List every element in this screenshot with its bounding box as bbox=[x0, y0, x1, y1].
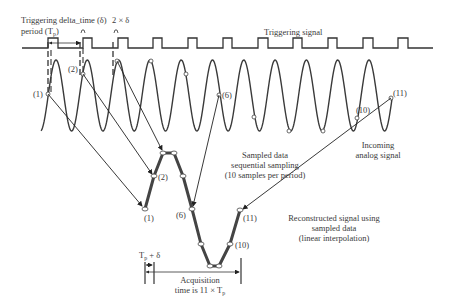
two-delta-label: 2 × δ bbox=[112, 15, 129, 25]
incoming-analog-line2: analog signal bbox=[348, 150, 408, 160]
sine-sample-label-2: (2) bbox=[68, 64, 78, 74]
triggering-signal-label: Triggering signal bbox=[264, 27, 322, 37]
recon-sample-label-2: (2) bbox=[158, 172, 168, 182]
two-delta-marker-icon bbox=[114, 30, 118, 33]
reconstructed-signal-label: Reconstructed signal using sampled data … bbox=[279, 213, 389, 243]
delta-time-label: delta_time (δ) bbox=[59, 15, 107, 25]
incoming-analog-signal-waveform bbox=[41, 60, 392, 131]
map-arrow-2 bbox=[83, 74, 152, 174]
triggering-period-label-line2: period (Tp) bbox=[21, 26, 59, 39]
recon-sample-label-1: (1) bbox=[144, 213, 154, 223]
reconstructed-line3: (linear interpolation) bbox=[279, 233, 389, 243]
sine-sample-label-11: (11) bbox=[393, 88, 407, 98]
recon-sample-label-6: (6) bbox=[176, 210, 186, 220]
sine-sample-label-10: (10) bbox=[356, 105, 370, 115]
triggering-period-text: period (T bbox=[21, 26, 53, 36]
acquisition-time-label: Acquisition time is 11 × Tp bbox=[160, 275, 240, 298]
sine-sample-label-1: (1) bbox=[33, 89, 43, 99]
triggering-period-close: ) bbox=[56, 26, 59, 36]
recon-sample-label-10: (10) bbox=[235, 240, 249, 250]
sampled-data-line2: sequential sampling bbox=[210, 160, 320, 170]
triggering-signal-waveform bbox=[22, 38, 433, 48]
sequential-sampling-diagram: Triggering period (Tp) delta_time (δ) 2 … bbox=[0, 0, 454, 307]
acquisition-subscript: p bbox=[222, 290, 225, 296]
incoming-analog-label: Incoming analog signal bbox=[348, 140, 408, 160]
tp-delta-rest: + δ bbox=[147, 250, 160, 260]
triggering-period-label-line1: Triggering bbox=[21, 15, 57, 25]
sampled-data-line1: Sampled data bbox=[210, 150, 320, 160]
reconstructed-line2: sampled data bbox=[279, 223, 389, 233]
acquisition-line1: Acquisition bbox=[160, 275, 240, 285]
acquisition-line2: time is 11 × Tp bbox=[160, 285, 240, 298]
sampled-data-line3: (10 samples per period) bbox=[210, 170, 320, 180]
recon-sample-label-11: (11) bbox=[243, 213, 257, 223]
sine-sample-label-6: (6) bbox=[222, 90, 232, 100]
delta-marker-icon bbox=[81, 30, 85, 33]
map-arrow-1 bbox=[48, 94, 142, 206]
acquisition-line2-text: time is 11 × T bbox=[175, 285, 222, 295]
incoming-analog-line1: Incoming bbox=[348, 140, 408, 150]
sampled-data-label: Sampled data sequential sampling (10 sam… bbox=[210, 150, 320, 180]
tp-plus-delta-label: Tp + δ bbox=[139, 250, 160, 263]
reconstructed-line1: Reconstructed signal using bbox=[279, 213, 389, 223]
